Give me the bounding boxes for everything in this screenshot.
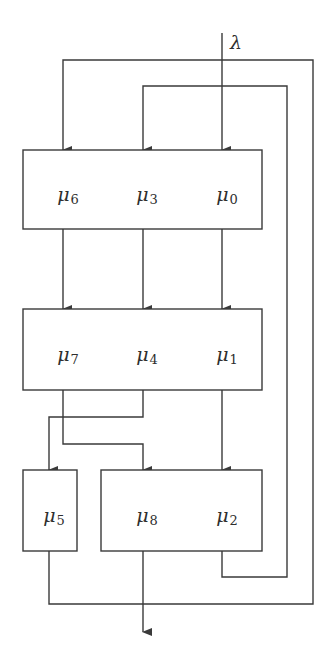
node-mu7: μ7 xyxy=(57,343,79,367)
node-mu2: μ2 xyxy=(216,504,238,528)
diagram-canvas xyxy=(0,0,333,659)
node-mu5: μ5 xyxy=(43,504,65,528)
node-mu8: μ8 xyxy=(136,504,158,528)
input-label-lambda: λ xyxy=(230,31,242,53)
node-mu4: μ4 xyxy=(136,343,158,367)
node-mu6: μ6 xyxy=(57,183,79,207)
node-mu0: μ0 xyxy=(216,183,238,207)
node-mu3: μ3 xyxy=(136,183,158,207)
wire-mu7-mu8 xyxy=(63,390,143,470)
stage-3b-box xyxy=(101,470,262,551)
node-mu1: μ1 xyxy=(216,343,238,367)
